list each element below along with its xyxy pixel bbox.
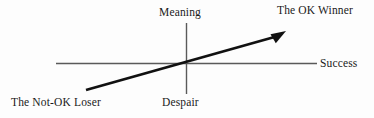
annotation-not-ok-loser: The Not-OK Loser	[11, 96, 101, 109]
annotation-ok-winner: The OK Winner	[277, 4, 353, 17]
axis-label-success: Success	[320, 57, 357, 70]
axis-label-despair: Despair	[162, 96, 199, 109]
axis-label-meaning: Meaning	[159, 6, 201, 19]
quadrant-diagram: Meaning Despair Success The OK Winner Th…	[0, 0, 374, 118]
progress-arrow-head	[271, 31, 287, 43]
